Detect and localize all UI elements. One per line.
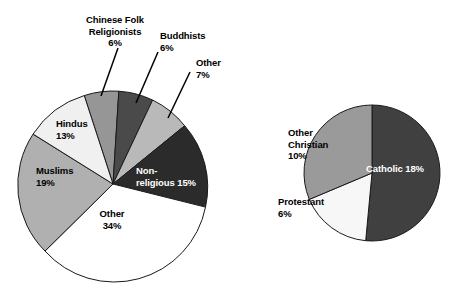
- label-hindus: Hindus 13%: [56, 118, 114, 141]
- leader-line-chinese-folk: [101, 48, 118, 96]
- label-non-religious: Non- religious 15%: [136, 165, 212, 188]
- label-buddhists: Buddhists 6%: [160, 30, 230, 53]
- label-other-7: Other 7%: [196, 57, 248, 80]
- label-other-christian: Other Christian 10%: [288, 127, 356, 162]
- label-catholic: Catholic 18%: [366, 163, 452, 175]
- label-chinese-folk: Chinese Folk Religionists 6%: [62, 14, 168, 49]
- pie-charts-figure: Chinese Folk Religionists 6% Buddhists 6…: [0, 0, 456, 294]
- label-protestant: Protestant 6%: [278, 196, 352, 219]
- leader-line-other-7: [168, 72, 190, 118]
- label-other-34: Other 34%: [82, 208, 142, 231]
- leader-line-buddhists: [136, 52, 158, 103]
- label-muslims: Muslims 19%: [36, 165, 102, 188]
